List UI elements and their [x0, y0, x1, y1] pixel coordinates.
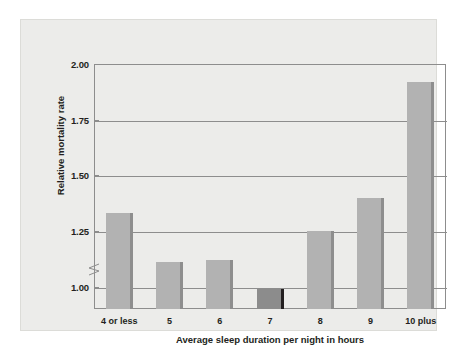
gridline — [95, 232, 447, 233]
y-axis-tick-label: 1.25 — [49, 226, 89, 237]
bar-8: 1.25 — [307, 231, 331, 309]
bar-10-plus: 1.92 — [407, 82, 431, 309]
gridline — [95, 121, 447, 122]
bar-face — [156, 262, 180, 309]
y-axis-tick-group: 1.001.251.501.752.00 — [43, 20, 89, 350]
bar-face — [307, 231, 331, 309]
bar-6: 1.12 — [206, 260, 230, 309]
x-axis-tick-label: 4 or less — [101, 316, 138, 326]
bar-side-edge — [130, 213, 133, 309]
bar-side-edge — [180, 262, 183, 309]
bar-face — [407, 82, 431, 309]
y-axis-tick-label: 1.00 — [49, 281, 89, 292]
x-axis-tick-label: 10 plus — [405, 316, 436, 326]
bar-7: 0.99 — [257, 289, 281, 309]
figure-container: Relative mortality rate 1.001.251.501.75… — [0, 0, 457, 350]
x-axis-tick-label: 5 — [167, 316, 172, 326]
y-axis-tick-label: 1.50 — [49, 170, 89, 181]
bar-side-edge — [281, 289, 284, 309]
bar-side-edge — [431, 82, 434, 309]
x-axis-tick-label: 8 — [318, 316, 323, 326]
bar-side-edge — [230, 260, 233, 309]
bar-side-edge — [381, 198, 384, 309]
bar-face — [257, 289, 281, 309]
x-axis-tick-label: 7 — [267, 316, 272, 326]
y-axis-tick-mark — [94, 231, 99, 232]
bar-side-edge — [331, 231, 334, 309]
y-axis-tick-label: 2.00 — [49, 59, 89, 70]
bar-face — [106, 213, 130, 309]
x-axis-title: Average sleep duration per night in hour… — [94, 334, 446, 345]
chart-panel: Relative mortality rate 1.001.251.501.75… — [20, 19, 437, 331]
x-axis-tick-label: 9 — [368, 316, 373, 326]
bar-4-or-less: 1.33 — [106, 213, 130, 309]
bar-5: 1.11 — [156, 262, 180, 309]
bar-face — [357, 198, 381, 309]
y-axis-tick-mark — [94, 120, 99, 121]
y-axis-tick-mark — [94, 64, 99, 65]
y-axis-tick-label: 1.75 — [49, 114, 89, 125]
y-axis-tick-mark — [94, 287, 99, 288]
gridline — [95, 176, 447, 177]
bar-9: 1.4 — [357, 198, 381, 309]
x-axis-tick-label: 6 — [217, 316, 222, 326]
y-axis-tick-mark — [94, 175, 99, 176]
plot-area — [94, 64, 446, 309]
bar-face — [206, 260, 230, 309]
